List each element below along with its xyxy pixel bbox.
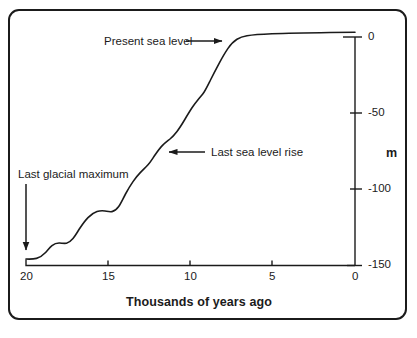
x-tick-label-15: 15 [102, 271, 115, 283]
y-tick-label-minus100: -100 [368, 183, 391, 195]
figure-root: 20 15 10 5 0 0 -50 -100 -150 Thousands o… [0, 0, 417, 338]
y-tick-label-0: 0 [368, 31, 374, 43]
y-axis-unit-label: m [386, 147, 397, 160]
annotation-label-last-sea-level-rise: Last sea level rise [211, 147, 303, 159]
y-tick-label-minus150: -150 [368, 259, 391, 271]
annotation-label-last-glacial-maximum: Last glacial maximum [18, 169, 129, 181]
x-tick-label-20: 20 [20, 271, 33, 283]
y-tick-label-minus50: -50 [368, 107, 385, 119]
x-tick-label-0: 0 [352, 271, 358, 283]
x-tick-label-5: 5 [269, 271, 275, 283]
x-tick-label-10: 10 [184, 271, 197, 283]
annotation-label-present-sea-level: Present sea level [104, 36, 192, 48]
figure-border [8, 9, 407, 320]
x-axis-title: Thousands of years ago [126, 296, 272, 309]
